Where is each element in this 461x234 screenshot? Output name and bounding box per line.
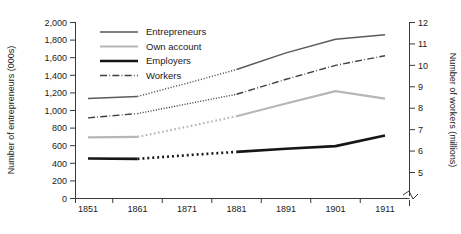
right-tick-label: 6 xyxy=(418,146,423,156)
left-axis-tick-labels: 02004006008001,0001,2001,4001,6001,8002,… xyxy=(44,18,67,204)
series-segment-solid xyxy=(237,35,386,70)
x-axis-tick-labels: 1851186118711881189119011911 xyxy=(78,204,395,214)
series-workers xyxy=(88,56,385,118)
left-tick-label: 1,400 xyxy=(44,71,67,81)
right-tick-label: 8 xyxy=(418,103,423,113)
left-tick-label: 600 xyxy=(52,141,67,151)
series-segment-solid xyxy=(88,114,138,118)
left-tick-label: 800 xyxy=(52,123,67,133)
left-tick-label: 1,800 xyxy=(44,35,67,45)
axis-break-icon xyxy=(403,191,418,199)
series-own-account xyxy=(88,91,385,137)
left-tick-label: 2,000 xyxy=(44,18,67,28)
legend-label-entrepreneurs: Entrepreneurs xyxy=(146,26,206,37)
series-lines xyxy=(88,35,385,159)
x-tick-label: 1891 xyxy=(276,204,296,214)
legend-label-employers: Employers xyxy=(146,55,191,66)
right-tick-label: 12 xyxy=(418,18,428,28)
x-tick-label: 1861 xyxy=(127,204,147,214)
left-axis-title: Number of entrepreneurs (000s) xyxy=(6,46,16,175)
x-tick-label: 1851 xyxy=(78,204,98,214)
right-tick-label: 9 xyxy=(418,82,423,92)
series-segment-solid xyxy=(88,96,138,98)
chart-legend: EntrepreneursOwn accountEmployersWorkers xyxy=(100,26,206,81)
left-tick-label: 1,200 xyxy=(44,88,67,98)
right-axis-tick-labels: 56789101112 xyxy=(418,18,428,178)
right-tick-label: 5 xyxy=(418,168,423,178)
left-tick-label: 1,600 xyxy=(44,53,67,63)
right-tick-label: 7 xyxy=(418,125,423,135)
right-axis-ticks xyxy=(410,23,416,173)
series-segment-dotted xyxy=(138,94,237,113)
left-tick-label: 200 xyxy=(52,176,67,186)
x-tick-label: 1901 xyxy=(325,204,345,214)
series-segment-solid xyxy=(237,91,386,116)
left-tick-label: 1,000 xyxy=(44,106,67,116)
right-tick-label: 10 xyxy=(418,61,428,71)
legend-label-workers: Workers xyxy=(146,70,181,81)
legend-label-own-account: Own account xyxy=(146,41,202,52)
chart-container: 02004006008001,0001,2001,4001,6001,8002,… xyxy=(0,0,461,234)
right-tick-label: 11 xyxy=(418,39,427,49)
x-tick-label: 1911 xyxy=(375,204,394,214)
left-axis-ticks xyxy=(70,23,76,199)
series-segment-dotted xyxy=(138,152,237,159)
series-entrepreneurs xyxy=(88,35,385,99)
series-segment-dotted xyxy=(138,116,237,137)
left-tick-label: 400 xyxy=(52,159,67,169)
left-tick-label: 0 xyxy=(62,194,67,204)
x-tick-label: 1871 xyxy=(177,204,197,214)
series-segment-solid xyxy=(237,136,386,152)
x-tick-label: 1881 xyxy=(226,204,246,214)
right-axis-title: Number of workers (millions) xyxy=(448,53,458,168)
x-axis-ticks xyxy=(76,199,361,204)
series-employers xyxy=(88,136,385,159)
line-chart: 02004006008001,0001,2001,4001,6001,8002,… xyxy=(0,0,461,234)
